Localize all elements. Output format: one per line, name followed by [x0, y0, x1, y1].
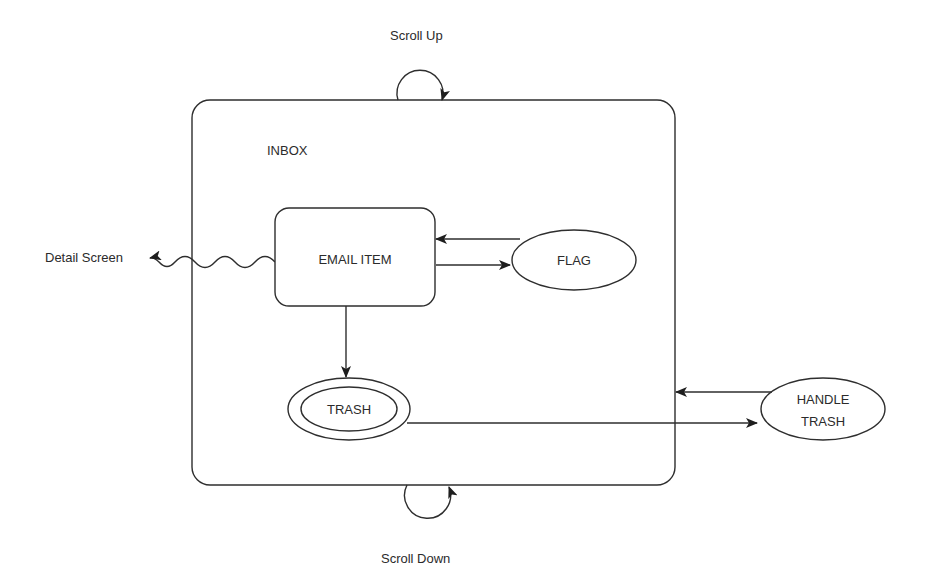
state-diagram: INBOX Scroll Up Scroll Down Detail Scree…	[0, 0, 929, 585]
state-flag[interactable]: FLAG	[512, 230, 636, 290]
handle-trash-label-line1: HANDLE	[797, 392, 850, 407]
detail-screen-label: Detail Screen	[45, 250, 123, 265]
state-handle-trash[interactable]: HANDLE TRASH	[761, 378, 885, 440]
trash-label: TRASH	[327, 402, 371, 417]
detail-screen-transition	[150, 257, 275, 268]
state-trash[interactable]: TRASH	[288, 378, 410, 440]
scroll-up-loop	[397, 70, 443, 100]
handle-trash-label-line2: TRASH	[801, 414, 845, 429]
inbox-label: INBOX	[267, 143, 308, 158]
scroll-up-label: Scroll Up	[390, 28, 443, 43]
email-item-label: EMAIL ITEM	[318, 252, 391, 267]
flag-label: FLAG	[557, 253, 591, 268]
scroll-down-loop	[405, 485, 451, 518]
scroll-down-label: Scroll Down	[381, 551, 450, 566]
state-email-item[interactable]: EMAIL ITEM	[275, 208, 435, 306]
